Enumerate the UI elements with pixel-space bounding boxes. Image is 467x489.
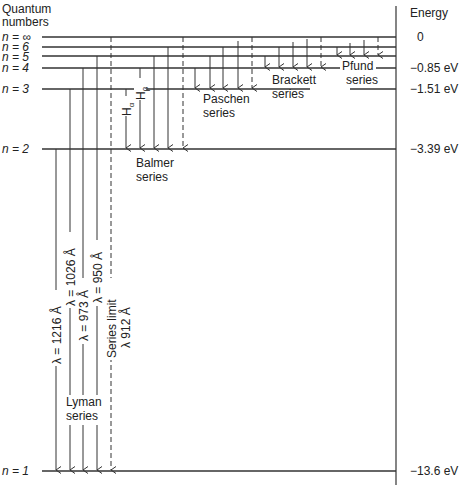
lyman-wavelength-labels: λ = 1216 Å λ = 1026 Å λ = 973 Å λ = 950 … <box>49 232 133 366</box>
brackett-series-label: Brackett <box>272 73 317 87</box>
paschen-series-label-2: series <box>203 106 235 120</box>
svg-text:n = 4: n = 4 <box>2 61 29 75</box>
svg-text:Series limit: Series limit <box>105 299 119 358</box>
energy-title: Energy <box>410 6 448 20</box>
balmer-series-label: Balmer <box>136 156 174 170</box>
lyman-series-label-2: series <box>66 409 98 423</box>
paschen-series-label: Paschen <box>203 92 250 106</box>
svg-text:λ = 950 Å: λ = 950 Å <box>90 252 105 303</box>
paschen-transitions <box>195 37 252 88</box>
svg-text:λ = 1026 Å: λ = 1026 Å <box>63 248 78 306</box>
level-labels: n = ∞ n = 6 n = 5 n = 4 n = 3 n = 2 n = … <box>2 30 31 478</box>
svg-text:n = 3: n = 3 <box>2 82 29 96</box>
svg-text:−3.39 eV: −3.39 eV <box>410 142 458 156</box>
pfund-transitions <box>337 37 378 55</box>
balmer-series-label-2: series <box>136 170 168 184</box>
svg-text:n = 1: n = 1 <box>2 464 29 478</box>
svg-text:λ = 1216 Å: λ = 1216 Å <box>49 306 64 364</box>
brackett-transitions <box>265 37 321 67</box>
svg-text:n = 2: n = 2 <box>2 142 29 156</box>
svg-text:λ 912 Å: λ 912 Å <box>118 307 133 348</box>
quantum-numbers-title: Quantum <box>2 2 51 16</box>
energy-labels: 0 −0.85 eV −1.51 eV −3.39 eV −13.6 eV <box>410 30 458 478</box>
svg-text:−1.51 eV: −1.51 eV <box>410 82 458 96</box>
quantum-numbers-title-2: numbers <box>2 15 49 29</box>
hydrogen-energy-level-diagram: Quantum numbers Energy n = ∞ n = 6 n = 5… <box>0 0 467 489</box>
lyman-series-label: Lyman <box>66 395 102 409</box>
svg-text:λ = 973 Å: λ = 973 Å <box>76 290 91 341</box>
brackett-series-label-2: series <box>272 87 304 101</box>
pfund-series-label-2: series <box>346 73 378 87</box>
svg-text:−13.6 eV: −13.6 eV <box>410 464 458 478</box>
svg-text:0: 0 <box>417 30 424 44</box>
svg-text:−0.85 eV: −0.85 eV <box>410 61 458 75</box>
pfund-series-label: Pfund <box>342 59 373 73</box>
